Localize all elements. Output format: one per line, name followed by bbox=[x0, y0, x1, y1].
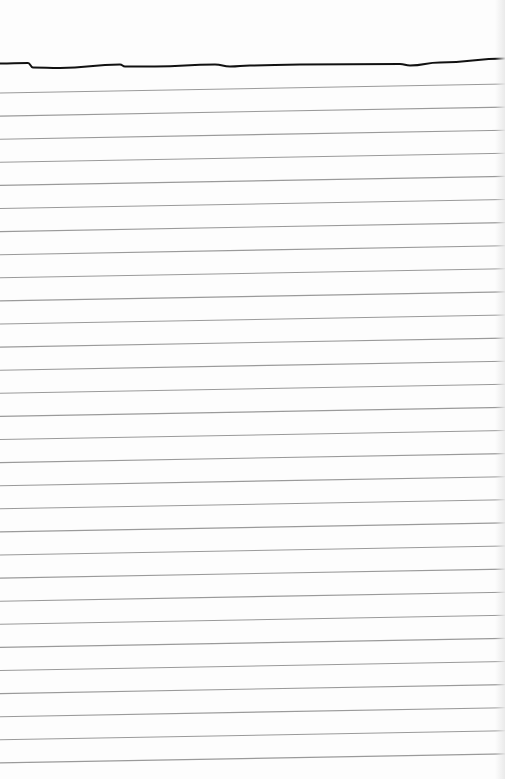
ruled-line bbox=[0, 338, 505, 347]
ruled-line bbox=[0, 176, 505, 185]
lined-paper-page bbox=[0, 0, 505, 779]
ruled-line bbox=[0, 269, 505, 278]
ruled-line bbox=[0, 500, 505, 509]
ruled-line bbox=[0, 200, 505, 209]
ruled-lines bbox=[0, 84, 505, 763]
ruled-line bbox=[0, 592, 505, 601]
ruled-line bbox=[0, 130, 505, 139]
hand-drawn-ink-line bbox=[0, 59, 505, 69]
ruled-line bbox=[0, 361, 505, 370]
ruled-line bbox=[0, 638, 505, 647]
paper-drawing bbox=[0, 0, 505, 779]
ruled-line bbox=[0, 223, 505, 232]
ruled-line bbox=[0, 292, 505, 301]
ruled-line bbox=[0, 153, 505, 162]
ruled-line bbox=[0, 384, 505, 393]
ruled-line bbox=[0, 731, 505, 740]
ruled-line bbox=[0, 431, 505, 440]
ruled-line bbox=[0, 454, 505, 463]
ruled-line bbox=[0, 685, 505, 694]
ruled-line bbox=[0, 407, 505, 416]
ruled-line bbox=[0, 523, 505, 532]
ruled-line bbox=[0, 615, 505, 624]
ruled-line bbox=[0, 246, 505, 255]
ruled-line bbox=[0, 84, 505, 93]
ruled-line bbox=[0, 477, 505, 486]
ruled-line bbox=[0, 107, 505, 116]
ruled-line bbox=[0, 546, 505, 555]
ruled-line bbox=[0, 662, 505, 671]
ruled-line bbox=[0, 315, 505, 324]
ruled-line bbox=[0, 754, 505, 763]
ruled-line bbox=[0, 708, 505, 717]
ruled-line bbox=[0, 569, 505, 578]
